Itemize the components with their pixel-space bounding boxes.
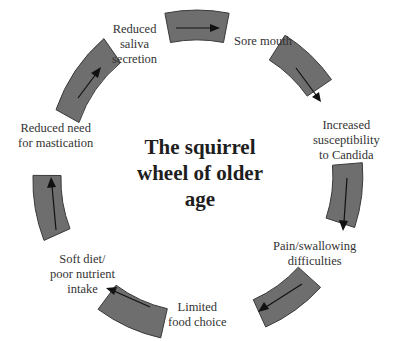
node-sore-mouth: Sore mouth	[234, 34, 292, 49]
arrow-segment-upper-left	[56, 39, 121, 123]
node-pain-swallowing-difficulties: Pain/swallowing difficulties	[273, 239, 356, 269]
node-increased-susceptibility-candida: Increased susceptibility to Candida	[313, 118, 380, 163]
node-soft-diet-poor-nutrient-intake: Soft diet/ poor nutrient intake	[50, 252, 115, 297]
node-limited-food-choice: Limited food choice	[168, 300, 227, 330]
arrow-segment-lower-right	[253, 267, 320, 327]
node-reduced-need-for-mastication: Reduced need for mastication	[18, 121, 93, 151]
arrow-segment-left	[33, 175, 70, 240]
arrow-segment-right	[326, 163, 363, 231]
diagram-title: The squirrel wheel of older age	[120, 134, 280, 212]
arrow-segment-top	[165, 10, 229, 42]
arrow-down-icon	[339, 220, 348, 231]
node-reduced-saliva-secretion: Reduced saliva secretion	[112, 22, 157, 67]
arrow-down-right-icon	[312, 92, 321, 102]
